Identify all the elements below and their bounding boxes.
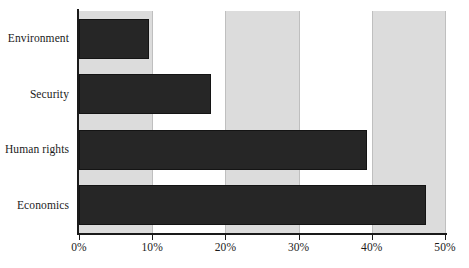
gridline <box>445 11 446 233</box>
x-axis-tick-label: 0% <box>71 241 87 253</box>
bar[interactable] <box>79 130 367 170</box>
x-axis-tick-mark <box>372 235 373 240</box>
y-axis-tick-label: Human rights <box>5 143 69 156</box>
x-axis-tick-label: 20% <box>215 241 236 253</box>
bar[interactable] <box>79 185 426 225</box>
bar[interactable] <box>79 74 211 114</box>
x-axis-tick-label: 50% <box>434 241 455 253</box>
y-axis-tick-label: Economics <box>17 199 69 212</box>
x-axis-tick-mark <box>445 235 446 240</box>
y-axis-label-cell: Environment <box>0 11 74 67</box>
plot-area <box>79 11 445 233</box>
y-axis-label-cell: Human rights <box>0 122 74 178</box>
x-axis-tick-mark <box>79 235 80 240</box>
bar-row <box>79 67 445 123</box>
bar-row <box>79 122 445 178</box>
y-axis-category-labels: Environment Security Human rights Econom… <box>0 11 74 233</box>
x-axis-tick-mark <box>152 235 153 240</box>
y-axis-label-cell: Security <box>0 67 74 123</box>
x-axis-tick-mark <box>225 235 226 240</box>
bar[interactable] <box>79 19 149 59</box>
bar-row <box>79 178 445 234</box>
y-axis-line <box>77 9 79 235</box>
y-axis-tick-label: Security <box>30 88 69 101</box>
bar-series <box>79 11 445 233</box>
x-axis-tick-label: 40% <box>361 241 382 253</box>
x-axis-tick-labels: 0%10%20%30%40%50% <box>79 241 445 261</box>
y-axis-tick-label: Environment <box>8 32 69 45</box>
bar-chart: Environment Security Human rights Econom… <box>0 0 469 268</box>
x-axis-tick-label: 10% <box>141 241 162 253</box>
bar-row <box>79 11 445 67</box>
x-axis-tick-mark <box>299 235 300 240</box>
x-axis-tick-label: 30% <box>288 241 309 253</box>
y-axis-label-cell: Economics <box>0 178 74 234</box>
